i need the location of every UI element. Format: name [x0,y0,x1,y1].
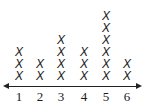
x-mark-icon: X [100,34,112,46]
x-mark-icon: X [34,70,46,82]
x-mark-icon: X [121,58,133,70]
x-mark-icon: X [100,46,112,58]
x-mark-icon: X [100,58,112,70]
x-mark-icon: X [78,46,90,58]
tick-label: 1 [12,90,26,104]
dot-plot: 123456 XXXXXXXXXXXXXXXXXXXX [0,0,145,110]
tick-label: 6 [120,90,134,104]
tick-label: 2 [33,90,47,104]
x-mark-icon: X [100,22,112,34]
x-mark-icon: X [121,70,133,82]
axis-arrow-left-icon [3,83,9,89]
x-mark-icon: X [34,58,46,70]
x-mark-icon: X [78,70,90,82]
x-mark-icon: X [55,58,67,70]
x-mark-icon: X [13,46,25,58]
x-mark-icon: X [100,70,112,82]
x-mark-icon: X [55,46,67,58]
x-mark-icon: X [78,58,90,70]
x-mark-icon: X [55,34,67,46]
axis-arrow-right-icon [136,83,142,89]
x-mark-icon: X [100,10,112,22]
x-mark-icon: X [13,70,25,82]
tick-label: 5 [99,90,113,104]
number-line-axis [5,86,139,87]
tick-label: 3 [54,90,68,104]
tick-label: 4 [77,90,91,104]
x-mark-icon: X [55,70,67,82]
x-mark-icon: X [13,58,25,70]
